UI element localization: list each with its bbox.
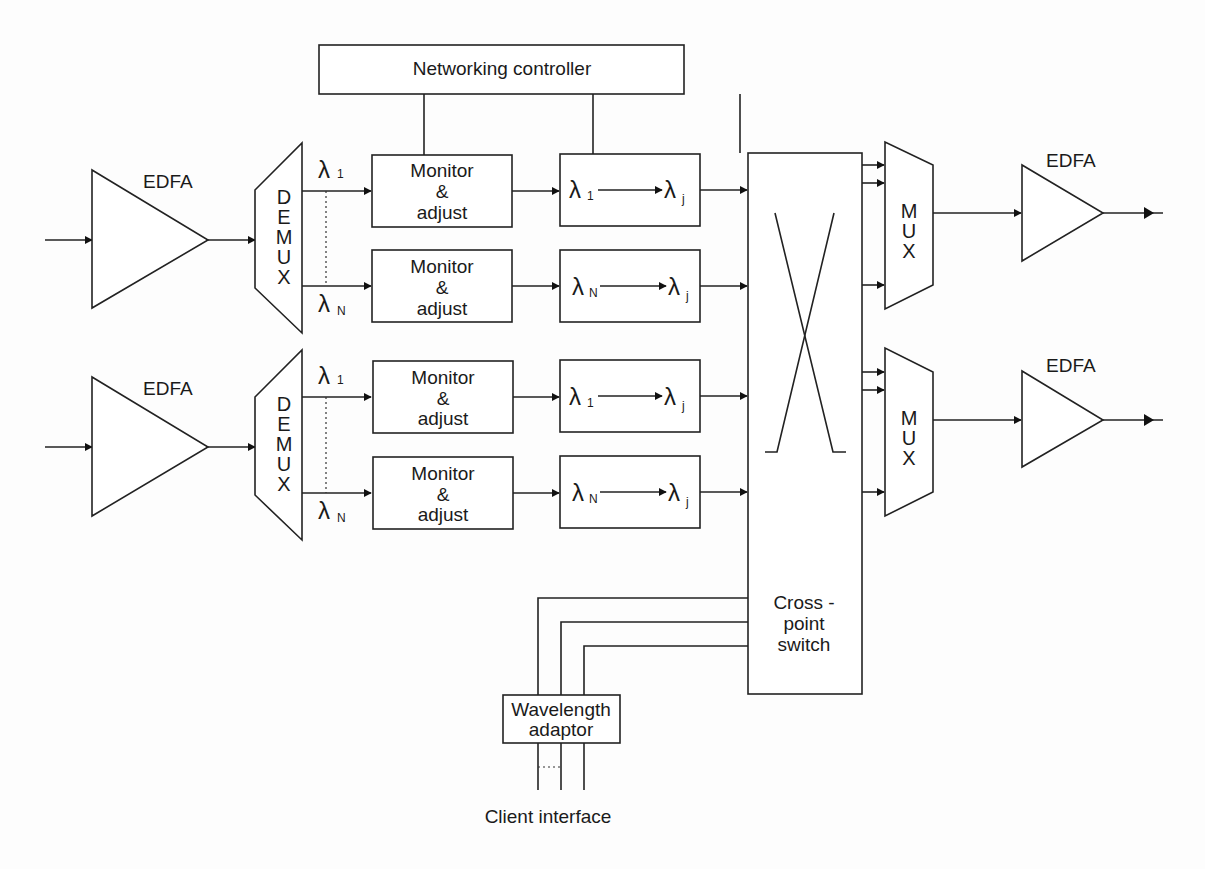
lambda-label: λ xyxy=(664,383,676,410)
monitor-label: & xyxy=(437,388,450,409)
lambda-sub: N xyxy=(337,511,346,525)
mux-letter: M xyxy=(901,407,918,429)
switch-label: point xyxy=(783,613,825,634)
demux-letter: M xyxy=(276,433,293,455)
client-path-2 xyxy=(561,622,748,695)
monitor-label: adjust xyxy=(417,202,468,223)
demux-letter: X xyxy=(277,473,290,495)
lambda-sub: N xyxy=(589,286,598,300)
monitor-adjust-4: Monitor & adjust xyxy=(373,457,513,529)
monitor-label: Monitor xyxy=(411,463,475,484)
edfa-label: EDFA xyxy=(143,171,193,192)
adaptor-label: adaptor xyxy=(529,719,594,740)
lambda-label: λ xyxy=(668,273,680,300)
demux-letter: M xyxy=(276,226,293,248)
controller-label: Networking controller xyxy=(413,58,592,79)
mux-letter: X xyxy=(902,447,915,469)
switch-label: Cross - xyxy=(773,592,834,613)
lambda-label: λ xyxy=(569,176,581,203)
monitor-label: & xyxy=(436,277,449,298)
demux-2: D E M U X xyxy=(255,350,302,540)
mux-letter: M xyxy=(901,200,918,222)
lambda-label: λ xyxy=(318,362,330,389)
cross-point-switch: Cross - point switch xyxy=(748,153,862,694)
wavelength-adaptor: Wavelength adaptor xyxy=(503,695,620,743)
mux-2: M U X xyxy=(885,348,933,516)
mux-1: M U X xyxy=(885,142,933,309)
edfa-input-1: EDFA xyxy=(92,170,208,308)
monitor-label: Monitor xyxy=(410,160,474,181)
monitor-adjust-2: Monitor & adjust xyxy=(372,250,512,322)
lambda-sub: 1 xyxy=(587,396,594,410)
mux-letter: U xyxy=(902,427,916,449)
lambda-sub: j xyxy=(685,495,689,509)
lambda-sub: j xyxy=(681,399,685,413)
edfa-output-2: EDFA xyxy=(1022,355,1103,467)
edfa-label: EDFA xyxy=(143,378,193,399)
lambda-label: λ xyxy=(318,156,330,183)
switch-label: switch xyxy=(778,634,831,655)
mux-letter: X xyxy=(902,240,915,262)
lambda-label: λ xyxy=(569,383,581,410)
lambda-label: λ xyxy=(318,290,330,317)
wavelength-converter-2: λ N λ j xyxy=(560,250,700,322)
edfa-input-2: EDFA xyxy=(92,377,208,516)
lambda-label: λ xyxy=(572,479,584,506)
networking-controller: Networking controller xyxy=(319,45,684,94)
wavelength-converter-1: λ 1 λ j xyxy=(560,154,700,226)
monitor-adjust-1: Monitor & adjust xyxy=(372,155,512,227)
lambda-label: λ xyxy=(318,497,330,524)
lambda-sub: 1 xyxy=(587,189,594,203)
lambda-sub: j xyxy=(681,192,685,206)
monitor-label: adjust xyxy=(418,504,469,525)
monitor-label: adjust xyxy=(417,298,468,319)
demux-letter: E xyxy=(277,206,290,228)
monitor-label: & xyxy=(437,484,450,505)
lambda-sub: N xyxy=(337,304,346,318)
demux-letter: E xyxy=(277,413,290,435)
edfa-output-1: EDFA xyxy=(1022,150,1103,261)
client-interface-label: Client interface xyxy=(485,806,612,827)
demux-letter: U xyxy=(277,246,291,268)
lambda-label: λ xyxy=(668,479,680,506)
lambda-sub: 1 xyxy=(337,373,344,387)
output-arrow-icon xyxy=(1144,414,1154,426)
mux-letter: U xyxy=(902,220,916,242)
demux-letter: X xyxy=(277,266,290,288)
lambda-sub: N xyxy=(589,492,598,506)
monitor-label: Monitor xyxy=(411,367,475,388)
edfa-label: EDFA xyxy=(1046,355,1096,376)
client-path-3 xyxy=(584,646,748,695)
monitor-adjust-3: Monitor & adjust xyxy=(373,361,513,433)
monitor-label: Monitor xyxy=(410,256,474,277)
lambda-sub: 1 xyxy=(337,167,344,181)
demux-letter: D xyxy=(277,186,291,208)
demux-letter: D xyxy=(277,393,291,415)
lambda-sub: j xyxy=(685,289,689,303)
edfa-label: EDFA xyxy=(1046,150,1096,171)
adaptor-label: Wavelength xyxy=(511,699,611,720)
wavelength-converter-4: λ N λ j xyxy=(560,456,700,528)
lambda-label: λ xyxy=(572,273,584,300)
demux-1: D E M U X xyxy=(255,143,302,333)
output-arrow-icon xyxy=(1144,207,1154,219)
lambda-label: λ xyxy=(664,176,676,203)
monitor-label: & xyxy=(436,181,449,202)
demux-letter: U xyxy=(277,453,291,475)
monitor-label: adjust xyxy=(418,408,469,429)
wavelength-converter-3: λ 1 λ j xyxy=(560,360,700,432)
wdm-node-diagram: Networking controller EDFA D E M U X λ 1… xyxy=(0,0,1205,869)
